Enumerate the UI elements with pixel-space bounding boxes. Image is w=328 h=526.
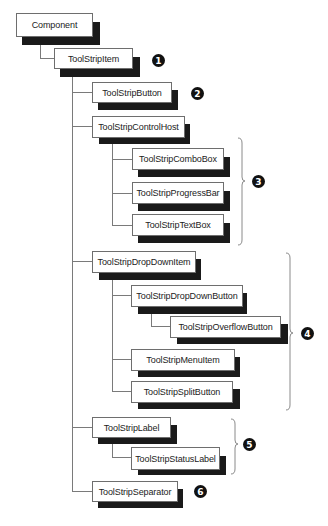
callout-badge-5: 5	[243, 438, 256, 451]
connector-to-separator	[72, 491, 93, 492]
connector-to-statuslabel	[112, 457, 132, 458]
connector-to-combobox	[112, 159, 132, 160]
callout-badge-3: 3	[252, 175, 265, 188]
brace-group-5	[229, 418, 241, 476]
connector-item-trunk	[72, 68, 73, 492]
connector-to-controlhost	[72, 126, 93, 127]
node-box: ToolStripSeparator	[92, 481, 178, 502]
node-box: ToolStripMenuItem	[131, 349, 235, 371]
callout-badge-2: 2	[191, 87, 204, 100]
connector-to-dropdownitem	[72, 261, 93, 262]
node-box: ToolStripLabel	[92, 417, 171, 438]
node-box: ToolStripItem	[54, 48, 133, 69]
node-box: ToolStripControlHost	[92, 116, 185, 138]
connector-to-progressbar	[112, 193, 132, 194]
node-box: ToolStripDropDownButton	[131, 285, 243, 307]
node-box: ToolStripButton	[92, 82, 172, 103]
connector-to-menuitem	[112, 359, 132, 360]
connector-controlhost-trunk	[112, 144, 113, 226]
connector-label-v	[112, 444, 113, 458]
node-box: ToolStripComboBox	[132, 148, 224, 170]
callout-badge-6: 6	[194, 485, 207, 498]
brace-group-3	[236, 137, 248, 247]
node-box: ToolStripDropDownItem	[92, 251, 196, 273]
node-box: ToolStripProgressBar	[132, 182, 224, 204]
connector-to-button	[72, 92, 93, 93]
connector-to-label	[72, 427, 93, 428]
node-box: ToolStripStatusLabel	[131, 447, 220, 470]
node-box: Component	[16, 13, 93, 37]
connector-dropdownitem-trunk	[112, 280, 113, 392]
connector-to-dropdownbutton	[112, 295, 132, 296]
connector-component-h	[40, 58, 55, 59]
connector-to-splitbutton	[112, 391, 132, 392]
connector-to-textbox	[112, 225, 132, 226]
node-box: ToolStripTextBox	[132, 214, 224, 236]
connector-to-overflowbutton	[151, 326, 171, 327]
callout-badge-1: 1	[152, 54, 165, 67]
callout-badge-4: 4	[301, 327, 314, 340]
node-box: ToolStripSplitButton	[131, 381, 233, 403]
node-box: ToolStripOverflowButton	[170, 316, 281, 338]
brace-group-4	[284, 252, 296, 412]
